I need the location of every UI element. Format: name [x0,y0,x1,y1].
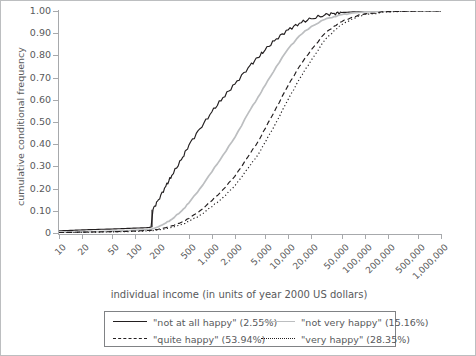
y-tick [53,211,58,212]
y-tick-label: 0.30 [17,161,51,171]
x-tick [365,234,366,239]
legend-label: "quite happy" (53.94%) [153,334,265,345]
y-tick [53,11,58,12]
x-tick [441,234,442,239]
x-tick [342,234,343,239]
x-tick [418,234,419,239]
x-tick [112,234,113,239]
legend-line-swatch [261,317,295,327]
series-line [59,11,441,231]
y-tick-label: 1.00 [17,6,51,16]
legend-item[interactable]: "not at all happy" (2.55%) [105,313,277,331]
legend-row: "quite happy" (53.94%)"very happy" (28.3… [105,330,397,348]
y-tick-label: 0.60 [17,95,51,105]
series-lines [59,11,441,233]
x-tick [265,234,266,239]
x-tick [388,234,389,239]
y-tick [53,33,58,34]
x-tick [59,234,60,239]
x-tick [189,234,190,239]
legend-line-swatch [113,334,147,344]
y-tick-label: 0.10 [17,206,51,216]
x-tick [212,234,213,239]
series-line [59,11,441,232]
y-tick-label: 0.70 [17,73,51,83]
y-tick [53,166,58,167]
y-tick [53,122,58,123]
y-tick [53,189,58,190]
x-axis-title: individual income (in units of year 2000… [1,289,476,300]
y-tick-label: 0.40 [17,139,51,149]
plot-area [59,11,441,233]
legend-line-swatch [113,317,147,327]
legend-item[interactable]: "quite happy" (53.94%) [105,330,265,348]
series-line [59,11,441,233]
y-axis-tick-labels: 00.100.200.300.400.500.600.700.800.901.0… [9,1,51,356]
chart-figure: cumulative conditional frequency 00.100.… [0,0,476,356]
y-tick-label: 0.20 [17,184,51,194]
x-tick [235,234,236,239]
legend-label: "not very happy" (15.16%) [301,317,429,328]
legend-label: "very happy" (28.35%) [301,334,410,345]
legend-item[interactable]: "very happy" (28.35%) [253,330,410,348]
x-tick [311,234,312,239]
x-tick [288,234,289,239]
x-axis-line [58,234,442,235]
legend-row: "not at all happy" (2.55%)"not very happ… [105,313,397,331]
x-tick [135,234,136,239]
y-tick-label: 0.90 [17,28,51,38]
chart-legend: "not at all happy" (2.55%)"not very happ… [104,311,396,347]
y-tick-label: 0.50 [17,117,51,127]
y-tick-label: 0.80 [17,50,51,60]
y-tick [53,144,58,145]
x-tick [82,234,83,239]
legend-item[interactable]: "not very happy" (15.16%) [253,313,429,331]
y-tick-label: 0 [17,228,51,238]
y-tick [53,55,58,56]
series-line [59,11,441,233]
y-tick [53,78,58,79]
y-tick [53,100,58,101]
legend-line-swatch [261,334,295,344]
x-tick [158,234,159,239]
